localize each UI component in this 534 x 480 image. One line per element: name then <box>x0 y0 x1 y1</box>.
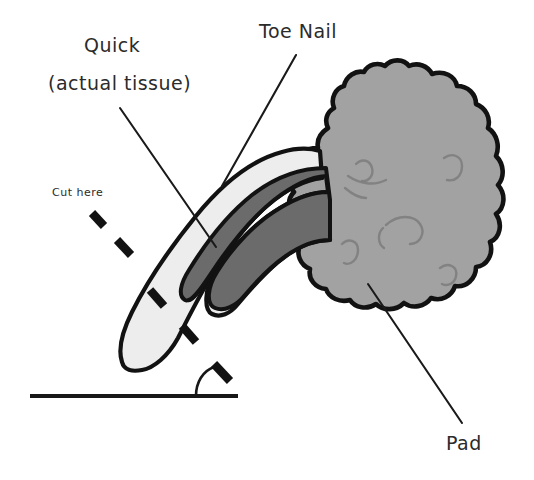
diagram-canvas: Quick (actual tissue) Toe Nail Cut here … <box>0 0 534 480</box>
label-quick-line2: (actual tissue) <box>48 72 191 94</box>
cut-dash-segment <box>92 213 104 226</box>
label-quick-line1: Quick <box>84 34 140 56</box>
cut-dash-segment <box>182 326 196 342</box>
leader-line-quick <box>120 108 216 247</box>
angle-arc <box>196 367 214 396</box>
label-cut-here: Cut here <box>52 186 103 199</box>
toe-nail-anatomy-illustration: Quick (actual tissue) Toe Nail Cut here … <box>0 0 534 480</box>
pad-group <box>289 60 504 309</box>
cut-dash-segment <box>117 240 131 255</box>
label-pad: Pad <box>446 432 482 454</box>
label-toe-nail: Toe Nail <box>258 20 337 42</box>
pad-shape <box>289 60 504 309</box>
cut-dash-segment <box>214 364 230 381</box>
